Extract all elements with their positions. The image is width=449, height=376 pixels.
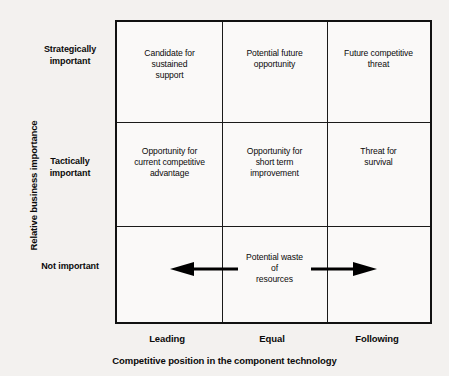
cell-line2: sustained <box>121 59 218 70</box>
row-label-line2: important <box>28 168 112 180</box>
cell-line2: current competitive <box>121 157 218 168</box>
cell-line2: opportunity <box>226 59 323 70</box>
cell-line3: advantage <box>121 168 218 179</box>
x-axis-title: Competitive position in the component te… <box>0 355 449 366</box>
right-arrow-icon <box>311 262 377 276</box>
row-label-not-important: Not important <box>28 261 112 273</box>
row-label-line2: important <box>28 56 112 68</box>
row-label-line1: Tactically <box>28 156 112 168</box>
cell-line2: survival <box>331 157 426 168</box>
row-label-line1: Strategically <box>28 44 112 56</box>
column-label-equal: Equal <box>217 333 327 344</box>
cell-line1: Candidate for <box>121 48 218 59</box>
left-arrow-icon <box>170 262 238 276</box>
y-axis-title: Relative business importance <box>28 86 39 286</box>
cell-line3: resources <box>226 274 323 285</box>
cell-line3: improvement <box>226 168 323 179</box>
strategy-matrix-diagram: Relative business importance Strategical… <box>0 0 449 376</box>
cell-line1: Future competitive <box>331 48 426 59</box>
cell-line1: Threat for <box>331 146 426 157</box>
cell-line1: Potential future <box>226 48 323 59</box>
cell-line3: support <box>121 70 218 81</box>
cell-line2: short term <box>226 157 323 168</box>
cell-strategic-following: Future competitive threat <box>327 48 430 70</box>
matrix-grid: Candidate for sustained support Potentia… <box>115 20 432 324</box>
cell-strategic-equal: Potential future opportunity <box>222 48 327 70</box>
row-label-line1: Not important <box>28 261 112 273</box>
cell-line1: Opportunity for <box>121 146 218 157</box>
cell-strategic-leading: Candidate for sustained support <box>117 48 222 81</box>
row-label-strategically-important: Strategically important <box>28 44 112 67</box>
cell-tactical-leading: Opportunity for current competitive adva… <box>117 146 222 179</box>
cell-line1: Opportunity for <box>226 146 323 157</box>
row-label-tactically-important: Tactically important <box>28 156 112 179</box>
cell-line2: threat <box>331 59 426 70</box>
grid-horizontal-divider-1 <box>117 122 430 123</box>
column-label-following: Following <box>322 333 432 344</box>
grid-horizontal-divider-2 <box>117 226 430 227</box>
cell-line1: Potential waste <box>226 252 323 263</box>
cell-tactical-following: Threat for survival <box>327 146 430 168</box>
column-label-leading: Leading <box>112 333 222 344</box>
cell-line2: of <box>226 263 323 274</box>
cell-tactical-equal: Opportunity for short term improvement <box>222 146 327 179</box>
